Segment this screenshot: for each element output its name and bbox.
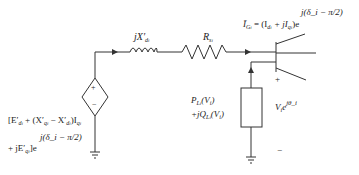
ground-icon-load <box>246 157 256 163</box>
current-arrow-icon-bus <box>245 49 251 55</box>
close-e: )e <box>292 19 299 29</box>
exponent-text: j(δ_i − π/2) <box>40 132 82 142</box>
generator-current-label: ĨGi = (Idi + jIqi)e <box>243 20 299 30</box>
inductor-symbol <box>130 48 157 52</box>
close-paren: ) <box>211 95 214 105</box>
sub-i: i <box>211 38 212 43</box>
current-arrow-icon <box>112 49 118 55</box>
E-open: [E′ <box>8 115 18 125</box>
load-label-line1: PLi(Vi) <box>191 96 214 106</box>
minus-X: − X′ <box>48 115 66 125</box>
bus-branch-lower <box>276 68 306 80</box>
inductor-label-main: jX <box>134 31 143 42</box>
source-minus-sign: − <box>92 101 97 109</box>
generator-current-exponent: j(δ_i − π/2) <box>301 8 343 17</box>
bracket-e: ]e <box>30 143 37 153</box>
resistor-label: Rsi <box>203 32 213 43</box>
exponent-text: j(δ_i − π/2) <box>301 7 343 17</box>
source-label-line2: + jE′qi]e <box>8 144 37 154</box>
inductor-label: jX′di <box>134 32 149 43</box>
exponent-text: jθ_i <box>286 99 297 107</box>
plus-jE: + jE′ <box>8 143 25 153</box>
bus-minus-sign: − <box>277 146 282 155</box>
eq-open: = (I <box>252 19 268 29</box>
source-label-line1: [E′di + (X′qi − X′di)Iqi <box>8 116 81 126</box>
plus-jI: + jI <box>272 19 288 29</box>
bus-plus-sign: + <box>275 75 280 84</box>
load-box <box>241 88 262 127</box>
plus-paren-X: + (X′ <box>23 115 44 125</box>
sub-i: i <box>148 38 149 43</box>
load-current-arrow-icon <box>248 67 254 73</box>
sub-i: i <box>80 121 81 126</box>
wire-bus-load <box>251 62 276 88</box>
V-paren: (V <box>201 95 210 105</box>
resistor-symbol <box>182 45 226 59</box>
close-paren: ) <box>221 109 224 119</box>
load-label-line2: +jQLi(Vi) <box>191 110 224 120</box>
bus-voltage-label: Viejθ_i <box>275 103 297 113</box>
bus-branch-upper <box>276 34 305 44</box>
circuit-diagram <box>0 0 359 175</box>
source-exponent: j(δ_i − π/2) <box>40 133 82 142</box>
ground-icon-source <box>90 152 100 158</box>
jQ-symbol: +jQ <box>191 109 206 119</box>
source-plus-sign: + <box>91 84 96 92</box>
wire-source-up <box>95 52 130 78</box>
